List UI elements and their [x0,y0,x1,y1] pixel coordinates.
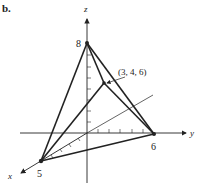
y-axis-ticks [98,129,143,133]
z-intercept-label: 8 [76,38,81,49]
panel-label: b. [2,2,11,14]
x-axis-negative [87,95,153,133]
point-label: (3, 4, 6) [118,67,147,77]
tetrahedron-edges [41,43,154,161]
y-intercept-label: 6 [151,141,156,152]
vertex-z-intercept [85,41,89,45]
z-axis-ticks [87,55,91,122]
y-axis-label: y [189,128,194,138]
vertex-y-intercept [152,132,156,136]
x-intercept-label: 5 [37,168,42,179]
vertex-point [102,81,106,85]
x-axis-label: x [7,171,12,181]
vertex-x-intercept [39,159,43,163]
tetrahedron-diagram: b. z y x [0,0,197,183]
z-axis-label: z [83,4,88,14]
